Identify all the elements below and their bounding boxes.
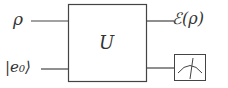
quantum-circuit: ρ |e₀⟩ U ℰ(ρ) — [0, 0, 228, 88]
output-label-channel: ℰ(ρ) — [172, 11, 204, 27]
gate-label-u: U — [99, 34, 114, 52]
meter-icon — [175, 55, 206, 81]
input-label-e0: |e₀⟩ — [5, 60, 31, 75]
input-label-rho: ρ — [13, 11, 23, 28]
